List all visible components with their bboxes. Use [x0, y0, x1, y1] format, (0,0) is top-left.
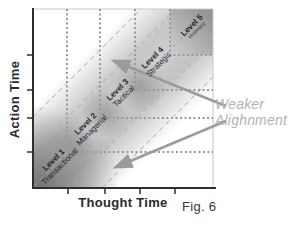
annotation-line-1: Weaker — [215, 96, 288, 112]
y-axis-label: Action Time — [7, 55, 22, 145]
figure-6-alignment-diagram: Action Time Thought Time Fig. 6 Level 1 … — [0, 0, 288, 225]
annotation-line-2: Alighnment — [215, 112, 288, 128]
figure-caption: Fig. 6 — [182, 199, 216, 214]
weaker-alignment-annotation: Weaker Alighnment — [215, 96, 288, 128]
